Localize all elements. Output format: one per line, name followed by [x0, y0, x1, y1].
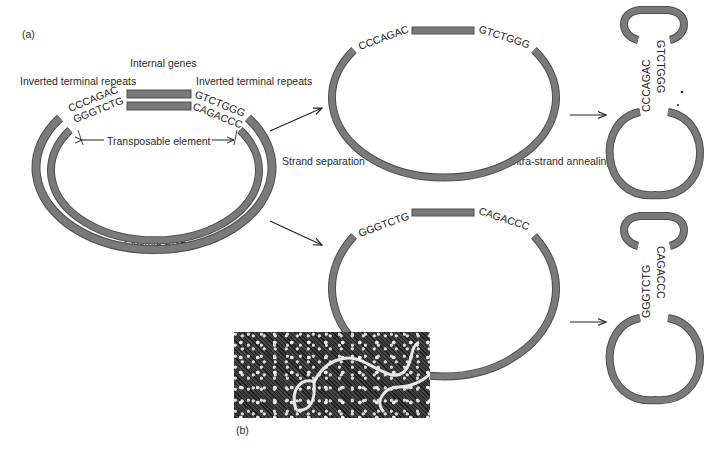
top-hairpin-right-seq: GTCTGGG — [655, 40, 667, 93]
top-hairpin-left-seq: CCCAGAC — [640, 59, 652, 112]
bottom-hairpin: GGGTCTG CAGACCC — [610, 216, 700, 400]
bottom-hairpin-right-seq: CAGACCC — [655, 246, 667, 299]
top-hairpin: CCCAGAC GTCTGGG — [610, 10, 700, 195]
bottom-strand-left-seq: GGGTCTG — [357, 209, 411, 238]
micrograph-hairpin-structures — [234, 332, 430, 418]
bottom-strand-right-seq: CAGACCC — [477, 204, 531, 232]
bottom-hairpin-left-seq: GGGTCTG — [640, 265, 652, 318]
electron-micrograph — [234, 332, 430, 418]
top-strand-right-seq: GTCTGGG — [477, 22, 531, 50]
arrow-to-bottom-strand — [270, 221, 322, 245]
top-single-strand: CCCAGAC GTCTGGG — [332, 22, 556, 177]
plasmid-dna: CCCAGAC GGGTCTG GTCTGGG CAGACCC — [36, 83, 272, 250]
arrow-to-top-strand — [270, 108, 322, 131]
top-strand-left-seq: CCCAGAC — [357, 23, 411, 52]
